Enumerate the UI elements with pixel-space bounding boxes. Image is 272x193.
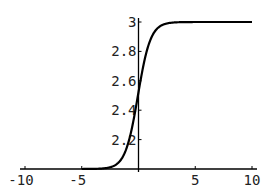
y-tick-label: 2.2 xyxy=(111,132,136,148)
x-tick-label: -10 xyxy=(8,172,33,188)
tick-labels: -10-55102.22.42.62.83 xyxy=(8,14,260,188)
y-tick-label: 2.6 xyxy=(111,73,136,89)
y-tick-label: 3 xyxy=(128,14,136,30)
x-tick-label: 5 xyxy=(191,172,199,188)
x-tick-label: 10 xyxy=(244,172,261,188)
x-tick-label: -5 xyxy=(69,172,86,188)
sigmoid-chart: -10-55102.22.42.62.83 xyxy=(0,0,272,193)
data-curve xyxy=(82,22,252,169)
y-tick-label: 2.8 xyxy=(111,43,136,59)
y-tick-label: 2.4 xyxy=(111,102,136,118)
